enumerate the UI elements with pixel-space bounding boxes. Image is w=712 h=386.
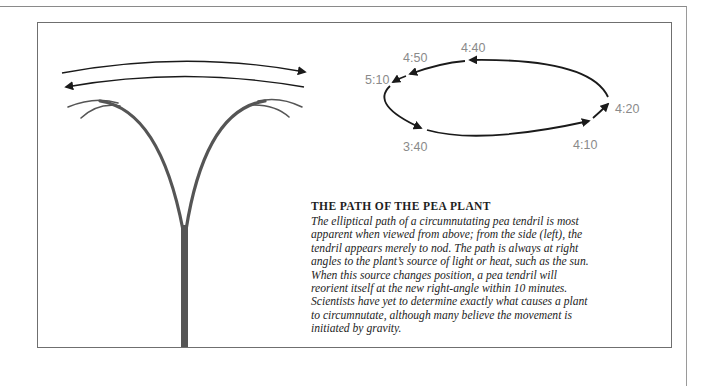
caption-line: to circumnutate, although many believe t… xyxy=(311,309,631,322)
caption-line: tendril appears merely to nod. The path … xyxy=(311,242,631,255)
segment-arrow-icon xyxy=(427,121,589,136)
time-label-4-40: 4:40 xyxy=(461,41,485,55)
side-view-nod-arrows xyxy=(62,61,305,87)
segment-arrow-icon xyxy=(393,76,406,82)
caption-line: initiated by gravity. xyxy=(311,322,631,335)
time-labels: 3:40 4:10 4:20 4:40 4:50 5:10 xyxy=(365,41,639,154)
caption-line: angles to the plant’s source of light or… xyxy=(311,255,631,268)
time-label-5-10: 5:10 xyxy=(365,73,389,87)
caption-title: THE PATH OF THE PEA PLANT xyxy=(311,199,631,213)
arrow-right-icon xyxy=(62,61,305,73)
segment-arrow-icon xyxy=(470,60,608,97)
time-label-4-20: 4:20 xyxy=(615,102,639,116)
side-view-pea-stem xyxy=(68,99,302,347)
caption-line: reorient itself at the new right-angle w… xyxy=(311,282,631,295)
arrow-left-icon xyxy=(66,77,304,88)
segment-arrow-icon xyxy=(384,86,421,128)
time-label-4-50: 4:50 xyxy=(403,51,427,65)
caption-line: apparent when viewed from above; from th… xyxy=(311,228,631,241)
time-label-4-10: 4:10 xyxy=(573,138,597,152)
caption-body: The elliptical path of a circumnutating … xyxy=(311,215,631,336)
top-view-ellipse-path xyxy=(384,60,608,136)
caption-line: Scientists have yet to determine exactly… xyxy=(311,295,631,308)
time-label-3-40: 3:40 xyxy=(403,140,427,154)
caption-line: The elliptical path of a circumnutating … xyxy=(311,215,631,228)
caption-line: When this source changes position, a pea… xyxy=(311,269,631,282)
figure-caption: THE PATH OF THE PEA PLANT The elliptical… xyxy=(311,199,631,336)
segment-arrow-icon xyxy=(593,104,608,118)
